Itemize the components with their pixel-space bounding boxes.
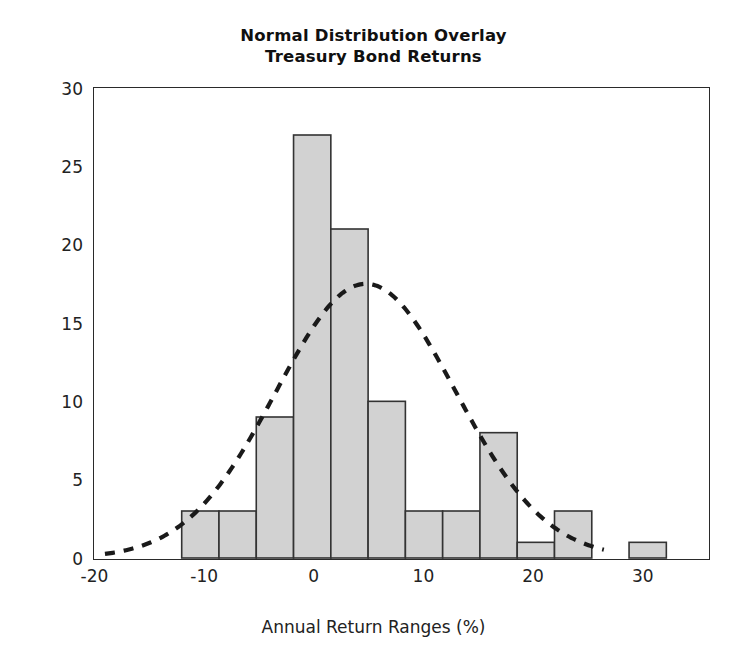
histogram-bar [368,401,405,558]
y-axis-tick-label: 0 [37,549,83,569]
plot-area [93,87,710,560]
y-axis-tick-label: 30 [37,79,83,99]
y-axis-tick-label: 25 [37,157,83,177]
y-axis-tick-label: 5 [37,470,83,490]
histogram-bar [443,511,480,558]
histogram-bar [480,433,517,558]
x-axis-tick-label: -10 [190,566,218,586]
histogram-bars [182,135,667,558]
histogram-bar [331,229,368,558]
y-axis-tick-label: 10 [37,392,83,412]
x-axis-tick-label: 0 [308,566,319,586]
y-axis-tick-label: 20 [37,235,83,255]
x-axis-tick-label: 10 [413,566,435,586]
chart-title-block: Normal Distribution Overlay Treasury Bon… [0,26,747,67]
x-axis-label: Annual Return Ranges (%) [0,617,747,637]
x-axis-tick-label: 30 [632,566,654,586]
x-axis-tick-label: 20 [522,566,544,586]
histogram-bar [294,135,331,558]
chart-subtitle: Treasury Bond Returns [0,47,747,68]
x-axis-tick-label: -20 [81,566,109,586]
histogram-bar [219,511,256,558]
chart-title: Normal Distribution Overlay [0,26,747,47]
plot-svg [94,88,708,558]
chart-container: Normal Distribution Overlay Treasury Bon… [0,0,747,657]
histogram-bar [182,511,219,558]
histogram-bar [256,417,293,558]
histogram-bar [405,511,442,558]
histogram-bar [517,542,554,558]
y-axis-tick-label: 15 [37,314,83,334]
histogram-bar [555,511,592,558]
histogram-bar [629,542,666,558]
